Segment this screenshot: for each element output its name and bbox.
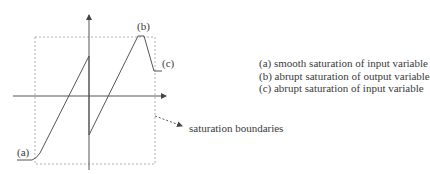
label-c: (c): [162, 57, 174, 69]
boundary-pointer-arrow: [155, 116, 182, 126]
label-saturation-boundaries: saturation boundaries: [189, 122, 283, 134]
legend: (a) smooth saturation of input variable …: [259, 57, 430, 95]
saturation-boundary-box: [35, 37, 155, 164]
label-b: (b): [137, 20, 150, 32]
legend-item-c: (c) abrupt saturation of input variable: [259, 82, 430, 95]
label-a: (a): [17, 146, 29, 158]
legend-item-a: (a) smooth saturation of input variable: [259, 57, 430, 70]
legend-item-b: (b) abrupt saturation of output variable: [259, 70, 430, 83]
